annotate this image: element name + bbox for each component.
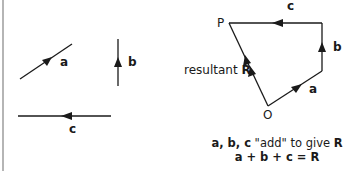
arrowhead-icon	[291, 84, 302, 93]
vector-c-free	[18, 112, 111, 120]
point-o-label: O	[263, 109, 272, 121]
arrowhead-icon	[61, 112, 72, 120]
caption-equation: a + b + c = R	[200, 150, 354, 164]
resultant-text: resultant	[184, 63, 241, 77]
label-b-free: b	[128, 56, 137, 68]
arrowhead-icon	[318, 42, 326, 52]
point-p-label: P	[217, 17, 224, 29]
caption-vectors: a, b, c	[211, 136, 251, 150]
resultant-symbol: R	[241, 63, 250, 77]
caption-line-1: a, b, c "add" to give R	[200, 136, 354, 150]
caption-r: R	[334, 136, 343, 150]
label-c-free: c	[69, 123, 76, 135]
label-a-free: a	[60, 56, 68, 68]
vector-b-free	[114, 39, 122, 86]
arrowhead-icon	[272, 19, 283, 27]
label-a-edge: a	[309, 83, 317, 95]
caption-rest: to give	[291, 136, 334, 150]
resultant-label: resultant R	[184, 64, 251, 76]
arrowhead-icon	[114, 57, 122, 67]
caption-add: "add"	[251, 136, 291, 150]
label-b-edge: b	[333, 41, 342, 53]
arrowhead-icon	[42, 57, 52, 66]
label-c-edge: c	[287, 0, 294, 12]
